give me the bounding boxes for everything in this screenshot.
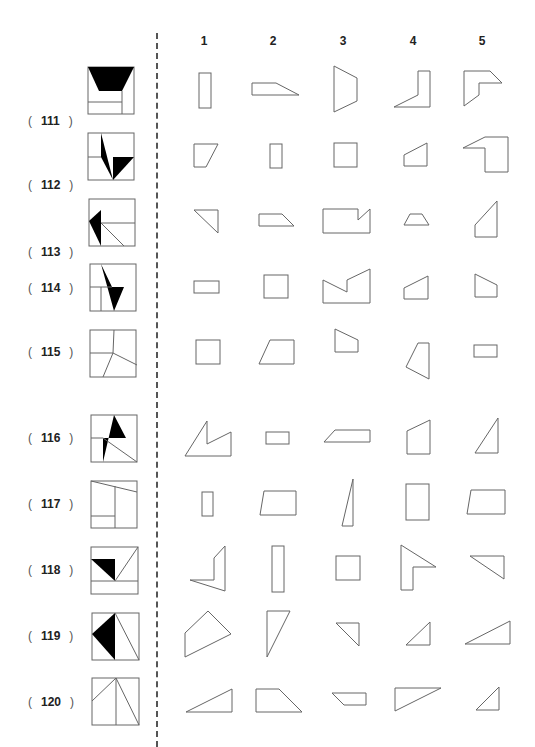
option-114-1[interactable] [194, 281, 219, 293]
option-119-3[interactable] [336, 623, 359, 646]
option-117-1[interactable] [202, 492, 213, 516]
option-116-5[interactable] [475, 418, 498, 453]
option-118-3[interactable] [336, 556, 360, 580]
option-112-3[interactable] [334, 143, 357, 167]
option-115-1[interactable] [196, 340, 220, 364]
option-119-4[interactable] [406, 622, 430, 645]
option-111-3[interactable] [334, 66, 357, 112]
option-120-1[interactable] [186, 689, 232, 712]
option-118-2[interactable] [272, 546, 284, 592]
option-113-4[interactable] [404, 214, 429, 225]
option-114-2[interactable] [264, 275, 288, 298]
option-115-3[interactable] [335, 329, 358, 352]
option-114-3[interactable] [323, 269, 370, 303]
option-119-2[interactable] [267, 611, 290, 657]
option-117-3[interactable] [342, 479, 353, 526]
option-118-4[interactable] [401, 545, 436, 590]
option-120-3[interactable] [332, 693, 366, 705]
option-120-5[interactable] [476, 687, 499, 710]
option-113-3[interactable] [323, 209, 370, 233]
option-116-3[interactable] [324, 430, 370, 442]
option-118-1[interactable] [190, 546, 225, 591]
option-118-5[interactable] [470, 556, 504, 579]
option-115-5[interactable] [474, 345, 497, 357]
option-figures [0, 0, 535, 747]
option-114-4[interactable] [404, 276, 428, 299]
option-112-1[interactable] [194, 144, 218, 167]
option-119-1[interactable] [185, 611, 231, 657]
option-111-4[interactable] [394, 71, 430, 107]
option-117-2[interactable] [260, 491, 296, 515]
option-116-1[interactable] [185, 421, 231, 456]
option-112-5[interactable] [463, 137, 508, 172]
option-111-2[interactable] [252, 83, 299, 95]
option-113-1[interactable] [194, 210, 218, 233]
option-117-5[interactable] [467, 490, 505, 514]
option-120-2[interactable] [256, 689, 302, 712]
option-115-4[interactable] [406, 343, 429, 379]
option-115-2[interactable] [259, 340, 294, 364]
option-112-4[interactable] [404, 143, 427, 166]
option-116-4[interactable] [407, 420, 430, 454]
option-111-5[interactable] [464, 71, 502, 106]
option-111-1[interactable] [199, 73, 211, 108]
option-117-4[interactable] [406, 484, 429, 520]
option-112-2[interactable] [270, 144, 282, 168]
option-116-2[interactable] [266, 432, 289, 444]
option-113-2[interactable] [259, 214, 294, 226]
option-114-5[interactable] [475, 274, 497, 297]
option-113-5[interactable] [475, 201, 497, 237]
option-120-4[interactable] [395, 688, 441, 711]
option-119-5[interactable] [465, 621, 510, 644]
